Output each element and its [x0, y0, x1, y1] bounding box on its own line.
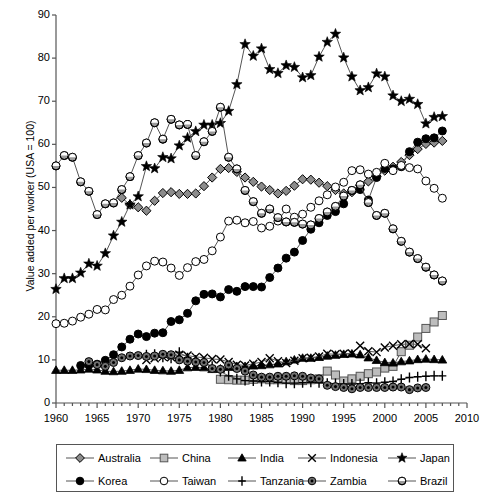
- circle-body: [241, 283, 249, 291]
- marker-circle-dot: [308, 477, 316, 485]
- circle-body: [134, 271, 142, 279]
- square-body: [364, 370, 372, 378]
- circle-body: [85, 310, 93, 318]
- star-body: [59, 273, 69, 283]
- marker-circle-half: [101, 200, 109, 208]
- plus-body: [238, 476, 246, 486]
- marker-circle-half: [340, 192, 348, 200]
- marker-circle-open: [192, 258, 200, 266]
- legend-item-korea[interactable]: Korea: [65, 469, 127, 493]
- marker-star: [100, 248, 110, 258]
- marker-star: [59, 273, 69, 283]
- marker-circle-dot: [364, 383, 372, 391]
- diamond-body: [249, 177, 258, 186]
- legend-item-china[interactable]: China: [149, 446, 211, 470]
- series-australia: [117, 136, 447, 215]
- legend-item-japan[interactable]: Japan: [387, 446, 450, 470]
- chart-plot-container: Value added per worker (USA = 100) 01020…: [0, 0, 483, 438]
- marker-circle: [142, 333, 150, 341]
- marker-circle-half: [208, 127, 216, 135]
- circle-body: [299, 236, 307, 244]
- star-body: [248, 50, 258, 60]
- marker-circle-open: [356, 166, 364, 174]
- circle-body: [192, 258, 200, 266]
- x-body: [422, 344, 430, 352]
- marker-circle-half: [282, 218, 290, 226]
- star-body: [108, 230, 118, 240]
- marker-square: [422, 324, 430, 332]
- circle-inner-dot: [293, 374, 296, 377]
- circle-inner-dot: [318, 377, 321, 380]
- circle-body: [225, 217, 233, 225]
- circle-body: [414, 165, 422, 173]
- marker-circle-dot: [323, 381, 331, 389]
- marker-circle-half: [233, 165, 241, 173]
- star-body: [314, 51, 324, 61]
- circle-body: [282, 254, 290, 262]
- marker-circle-dot: [282, 372, 290, 380]
- legend-label: Brazil: [420, 475, 448, 487]
- x-body: [381, 343, 389, 351]
- legend-item-india[interactable]: India: [227, 446, 284, 470]
- circle-body: [299, 210, 307, 218]
- circle-body: [200, 290, 208, 298]
- circle-body: [233, 287, 241, 295]
- marker-circle-dot: [258, 373, 266, 381]
- marker-circle-open: [126, 282, 134, 290]
- marker-circle-half: [249, 198, 257, 206]
- y-tick-label: 40: [24, 224, 50, 236]
- marker-circle-dot: [110, 358, 118, 366]
- marker-circle-open: [381, 159, 389, 167]
- circle-body: [76, 477, 84, 485]
- square-body: [414, 333, 422, 341]
- marker-circle-half: [192, 152, 200, 160]
- legend-item-zambia[interactable]: Zambia: [297, 469, 367, 493]
- circle-body: [126, 282, 134, 290]
- legend-item-tanzania[interactable]: Tanzania: [227, 469, 304, 493]
- x-tick-label: 1970: [118, 412, 158, 424]
- circle-body: [134, 330, 142, 338]
- circle-inner-dot: [244, 370, 247, 373]
- x-tick-label: 2000: [365, 412, 405, 424]
- circle-inner-dot: [326, 384, 329, 387]
- square-body: [373, 368, 381, 376]
- circle-inner-dot: [301, 375, 304, 378]
- marker-circle-open: [77, 313, 85, 321]
- legend-marker-circle-dot-icon: [297, 473, 327, 489]
- marker-circle-half: [60, 152, 68, 160]
- marker-star: [347, 71, 357, 81]
- legend-item-brazil[interactable]: Brazil: [387, 469, 448, 493]
- legend-item-indonesia[interactable]: Indonesia: [297, 446, 378, 470]
- marker-circle-open: [52, 320, 60, 328]
- plus-body: [438, 371, 446, 381]
- circle-body: [142, 262, 150, 270]
- marker-circle-half: [323, 208, 331, 216]
- marker-circle-dot: [299, 372, 307, 380]
- marker-square: [430, 318, 438, 326]
- circle-body: [159, 329, 167, 337]
- marker-circle: [274, 264, 282, 272]
- marker-circle-open: [159, 258, 167, 266]
- marker-circle: [290, 248, 298, 256]
- legend-item-australia[interactable]: Australia: [65, 446, 141, 470]
- series-korea: [77, 127, 447, 370]
- y-tick-label: 80: [24, 51, 50, 63]
- marker-circle-half: [184, 121, 192, 129]
- legend-item-taiwan[interactable]: Taiwan: [149, 469, 216, 493]
- star-body: [404, 94, 414, 104]
- marker-circle-half: [266, 205, 274, 213]
- circle-body: [52, 320, 60, 328]
- y-tick-label: 70: [24, 94, 50, 106]
- marker-circle: [184, 309, 192, 317]
- marker-circle-open: [307, 203, 315, 211]
- marker-circle-open: [422, 177, 430, 185]
- marker-star: [108, 230, 118, 240]
- marker-circle: [241, 283, 249, 291]
- star-body: [141, 161, 151, 171]
- marker-circle-open: [438, 194, 446, 202]
- marker-circle: [126, 335, 134, 343]
- marker-circle-dot: [389, 383, 397, 391]
- marker-star: [67, 273, 77, 283]
- circle-body: [430, 184, 438, 192]
- marker-circle-half: [159, 135, 167, 143]
